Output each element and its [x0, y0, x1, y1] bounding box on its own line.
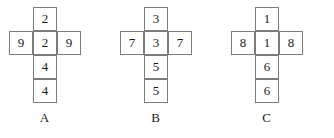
cube-net-b: 3 7 3 7 5 5 B [111, 0, 222, 138]
net-b-cell-third: 5 [144, 55, 168, 79]
cube-net-a: 2 9 2 9 4 4 A [0, 0, 111, 138]
net-a-cell-right: 9 [57, 31, 81, 55]
net-a-cell-third: 4 [33, 55, 57, 79]
net-a-cell-top: 2 [33, 7, 57, 31]
net-c-cell-top: 1 [255, 7, 279, 31]
net-c-cell-right: 8 [279, 31, 303, 55]
net-c-cell-bottom: 6 [255, 79, 279, 103]
net-a-cell-center: 2 [33, 31, 57, 55]
net-b-cell-right: 7 [168, 31, 192, 55]
net-b-cell-center: 3 [144, 31, 168, 55]
net-c-cell-third: 6 [255, 55, 279, 79]
net-a-label: A [0, 110, 100, 126]
net-b-cell-bottom: 5 [144, 79, 168, 103]
net-b-cell-top: 3 [144, 7, 168, 31]
net-a-cell-bottom: 4 [33, 79, 57, 103]
net-c-label: C [211, 110, 322, 126]
net-c-cell-center: 1 [255, 31, 279, 55]
cube-net-c: 1 8 1 8 6 6 C [222, 0, 333, 138]
net-a-cell-left: 9 [9, 31, 33, 55]
net-b-cell-left: 7 [120, 31, 144, 55]
net-a-diagram: 2 9 2 9 4 4 [0, 0, 111, 104]
cube-net-figure: 2 9 2 9 4 4 A 3 7 3 7 5 5 B 1 8 1 8 6 6 … [0, 0, 334, 138]
net-b-diagram: 3 7 3 7 5 5 [111, 0, 222, 104]
net-b-label: B [100, 110, 211, 126]
net-c-cell-left: 8 [231, 31, 255, 55]
net-c-diagram: 1 8 1 8 6 6 [222, 0, 333, 104]
